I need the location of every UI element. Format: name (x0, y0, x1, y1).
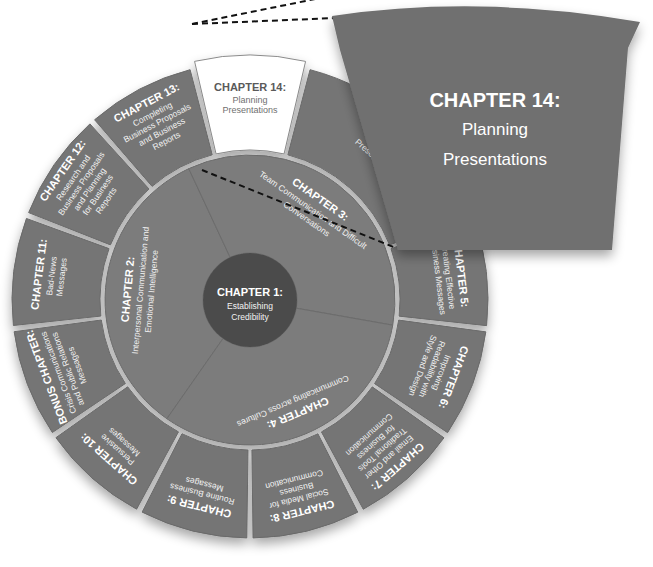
callout-heading: CHAPTER 14: (429, 89, 560, 111)
chapter-wheel-diagram: CHAPTER 5:Creating EffectiveBusiness Mes… (0, 0, 653, 567)
center-line-2: Credibility (231, 312, 269, 322)
outer-line: Presentations (223, 105, 279, 115)
core-circle (203, 253, 297, 347)
callout-line-1: Planning (462, 120, 528, 139)
outer-line: Planning (233, 95, 268, 105)
center-line-1: Establishing (227, 301, 273, 311)
callout-connector-top-path (192, 0, 330, 24)
outer-heading: CHAPTER 14: (214, 81, 286, 93)
center-heading: CHAPTER 1: (217, 286, 283, 298)
callout-line-2: Presentations (443, 150, 547, 169)
